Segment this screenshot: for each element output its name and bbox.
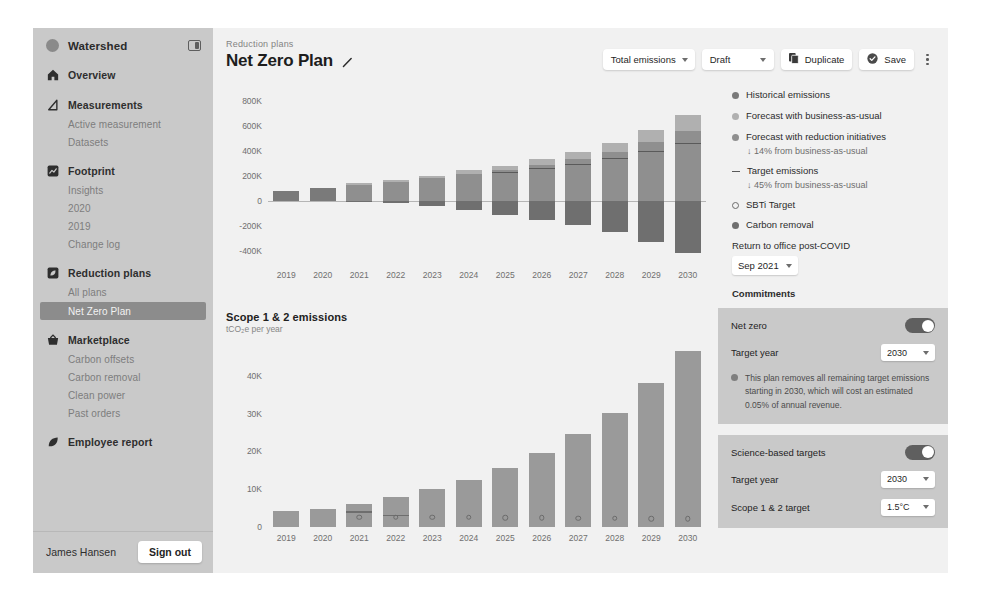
bar-group[interactable]: [597, 357, 634, 527]
commitment-toggle[interactable]: [905, 445, 935, 460]
sidebar-subitem-2019[interactable]: 2019: [33, 217, 213, 235]
x-axis-tick-label: 2023: [414, 270, 451, 280]
bar-segment: [492, 170, 518, 201]
commitment-toggle[interactable]: [905, 318, 935, 333]
sidebar-subitem-carbon-removal[interactable]: Carbon removal: [33, 368, 213, 386]
content-area: 800K600K400K200K0-200K-400K 201920202021…: [213, 80, 948, 573]
bar-group[interactable]: [633, 357, 670, 527]
bar-group[interactable]: [670, 357, 707, 527]
legend-label: Historical emissions: [746, 89, 830, 101]
sidebar-subitem-2020[interactable]: 2020: [33, 199, 213, 217]
bar-group[interactable]: [451, 88, 488, 263]
sidebar-item-overview[interactable]: Overview: [33, 65, 213, 85]
return-to-office-value: Sep 2021: [738, 260, 779, 271]
sidebar-item-reduction-plans[interactable]: Reduction plans: [33, 263, 213, 283]
bar-group[interactable]: [451, 357, 488, 527]
legend-item: Forecast with business-as-usual: [732, 110, 948, 122]
commitment-note: This plan removes all remaining target e…: [731, 372, 935, 412]
bar-group[interactable]: [305, 357, 342, 527]
x-axis-tick-label: 2020: [305, 533, 342, 543]
sidebar-subitem-active-measurement[interactable]: Active measurement: [33, 115, 213, 133]
sbti-target-marker: [649, 516, 655, 522]
breadcrumb[interactable]: Reduction plans: [226, 39, 354, 49]
status-select-value: Draft: [710, 54, 731, 65]
leaf-icon: [47, 436, 59, 448]
sidebar-subitem-change-log[interactable]: Change log: [33, 235, 213, 253]
bar-segment-negative: [565, 201, 591, 226]
sign-out-button[interactable]: Sign out: [138, 541, 202, 563]
duplicate-button[interactable]: Duplicate: [781, 49, 853, 70]
bar-segment: [383, 497, 409, 527]
bars-layer: [268, 88, 706, 263]
sidebar-subitem-all-plans[interactable]: All plans: [33, 283, 213, 301]
field-label: Target year: [731, 347, 779, 358]
bar-group[interactable]: [268, 88, 305, 263]
target-line: [346, 511, 372, 512]
field-select[interactable]: 1.5°C: [881, 499, 935, 516]
bar-group[interactable]: [524, 357, 561, 527]
bar-group[interactable]: [597, 88, 634, 263]
kebab-menu-icon[interactable]: [921, 51, 934, 68]
return-to-office-select[interactable]: Sep 2021: [732, 256, 798, 275]
total-emissions-chart: 800K600K400K200K0-200K-400K 201920202021…: [213, 80, 718, 305]
bar-group[interactable]: [341, 88, 378, 263]
sidebar-item-measurements[interactable]: Measurements: [33, 95, 213, 115]
x-axis-tick-label: 2030: [670, 270, 707, 280]
sidebar-group: MarketplaceCarbon offsetsCarbon removalC…: [33, 330, 213, 422]
bar-group[interactable]: [378, 88, 415, 263]
bar-segment: [456, 170, 482, 174]
sidebar-subitem-clean-power[interactable]: Clean power: [33, 386, 213, 404]
bar-group[interactable]: [414, 88, 451, 263]
chevron-down-icon: [923, 477, 929, 481]
bar-segment-negative: [383, 201, 409, 204]
bar-segment: [419, 176, 445, 179]
bar-group[interactable]: [560, 357, 597, 527]
bar-group[interactable]: [487, 88, 524, 263]
field-value: 2030: [887, 474, 907, 484]
status-select[interactable]: Draft: [702, 49, 774, 70]
bar-group[interactable]: [378, 357, 415, 527]
sbti-target-marker: [357, 514, 363, 520]
scope12-plot: 40K30K20K10K0: [268, 357, 706, 527]
sidebar-subitem-insights[interactable]: Insights: [33, 181, 213, 199]
legend-sublabel: ↓ 45% from business-as-usual: [747, 180, 948, 190]
bar-group[interactable]: [414, 357, 451, 527]
sidebar-brand[interactable]: Watershed: [33, 28, 213, 63]
bar-group[interactable]: [524, 88, 561, 263]
x-axis-tick-label: 2024: [451, 533, 488, 543]
bar-group[interactable]: [305, 88, 342, 263]
bar-segment-negative: [602, 201, 628, 233]
target-line: [492, 172, 518, 173]
bar-group[interactable]: [487, 357, 524, 527]
right-panel: Historical emissionsForecast with busine…: [718, 80, 948, 573]
target-line: [638, 151, 664, 152]
bar-segment: [565, 152, 591, 159]
sidebar-subitem-carbon-offsets[interactable]: Carbon offsets: [33, 350, 213, 368]
bar-group[interactable]: [341, 357, 378, 527]
bar-group[interactable]: [560, 88, 597, 263]
sidebar-subitem-net-zero-plan[interactable]: Net Zero Plan: [40, 302, 206, 320]
sidebar-item-footprint[interactable]: Footprint: [33, 161, 213, 181]
field-select[interactable]: 2030: [881, 344, 935, 361]
sidebar-item-employee-report[interactable]: Employee report: [33, 432, 213, 452]
bar-group[interactable]: [268, 357, 305, 527]
commitment-field-row: Target year2030: [731, 344, 935, 361]
sidebar-item-marketplace[interactable]: Marketplace: [33, 330, 213, 350]
sidebar-item-label: Employee report: [68, 436, 152, 448]
total-emissions-xaxis: 2019202020212022202320242025202620272028…: [268, 270, 706, 280]
sidebar-subitem-past-orders[interactable]: Past orders: [33, 404, 213, 422]
bar-group[interactable]: [670, 88, 707, 263]
sidebar-subitem-datasets[interactable]: Datasets: [33, 133, 213, 151]
y-axis-tick-label: 20K: [247, 446, 262, 456]
panel-collapse-icon[interactable]: [188, 40, 201, 51]
view-select[interactable]: Total emissions: [603, 49, 695, 70]
save-button[interactable]: Save: [859, 49, 914, 70]
pencil-icon[interactable]: [341, 55, 354, 68]
commitment-card: Net zeroTarget year2030This plan removes…: [718, 308, 948, 424]
field-select[interactable]: 2030: [881, 471, 935, 488]
sbti-target-marker: [685, 516, 691, 522]
y-axis-tick-label: 40K: [247, 371, 262, 381]
bar-group[interactable]: [633, 88, 670, 263]
sbti-target-marker: [430, 515, 436, 521]
y-axis-tick-label: 0: [257, 196, 262, 206]
